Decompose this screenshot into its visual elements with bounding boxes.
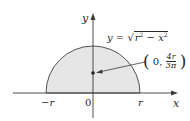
centroid-point [91, 71, 95, 75]
equation-equals: = [116, 32, 124, 43]
curve-equation-label: y = √r2 − x2 [107, 32, 168, 43]
x-axis-arrow-icon [171, 91, 178, 96]
tick-label-neg-r: −r [41, 98, 54, 108]
y-axis-arrow-icon [91, 13, 96, 20]
centroid-y-fraction: 4r 3π [166, 53, 177, 70]
y-axis-label: y [82, 13, 88, 24]
semicircle-centroid-figure: y y = √r2 − x2 ( 0, 4r 3π ) −r 0 r x [0, 0, 190, 121]
tick-label-pos-r: r [138, 98, 143, 108]
equation-sqrt: √r2 − x2 [127, 32, 167, 43]
sqrt-symbol-icon: √ [127, 32, 133, 43]
equation-radicand: r2 − x2 [134, 31, 168, 43]
centroid-x-value: 0, [153, 56, 163, 67]
equation-lhs: y [107, 32, 113, 43]
x-axis-label: x [173, 98, 179, 109]
centroid-coordinate-label: ( 0, 4r 3π ) [143, 53, 186, 70]
tick-label-origin: 0 [85, 98, 91, 108]
